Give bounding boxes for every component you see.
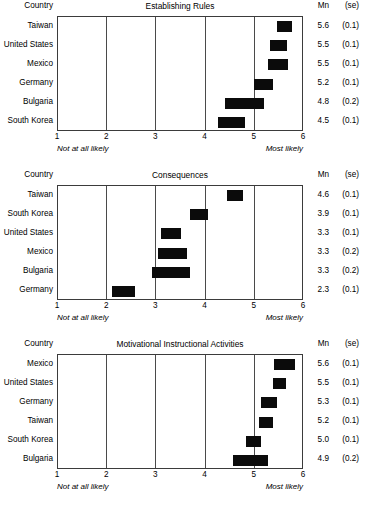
panel-title: Establishing Rules xyxy=(57,0,303,12)
plot-area xyxy=(57,185,303,300)
panel-header: CountryMotivational Instructional Activi… xyxy=(0,338,367,354)
row-value-se: (0.1) xyxy=(333,416,359,426)
row-label-country: Mexico xyxy=(0,59,53,69)
row-label-country: United States xyxy=(0,40,53,50)
x-axis-tick-label: 6 xyxy=(296,300,310,311)
gridline xyxy=(254,17,255,130)
column-header-mean: Mn xyxy=(305,338,329,350)
row-label-country: Mexico xyxy=(0,359,53,369)
row-label-country: Germany xyxy=(0,397,53,407)
gridline xyxy=(155,355,156,468)
confidence-interval-bar xyxy=(261,397,277,408)
row-value-se: (0.1) xyxy=(333,190,359,200)
panel-header: CountryEstablishing RulesMn(se) xyxy=(0,0,367,16)
x-axis-tick-label: 2 xyxy=(99,469,113,480)
gridline xyxy=(254,186,255,299)
confidence-interval-bar xyxy=(112,286,135,297)
row-label-country: United States xyxy=(0,228,53,238)
row-value-se: (0.1) xyxy=(333,116,359,126)
gridline xyxy=(106,186,107,299)
row-value-se: (0.1) xyxy=(333,78,359,88)
row-value-se: (0.1) xyxy=(333,285,359,295)
row-value-se: (0.2) xyxy=(333,97,359,107)
row-value-mean: 2.3 xyxy=(305,285,329,295)
column-header-country: Country xyxy=(0,0,53,12)
row-value-mean: 5.6 xyxy=(305,21,329,31)
axis-anchor-low: Not at all likely xyxy=(57,143,109,154)
confidence-interval-bar xyxy=(273,378,286,389)
panel-title: Motivational Instructional Activities xyxy=(57,338,303,350)
row-label-country: Germany xyxy=(0,78,53,88)
row-value-se: (0.1) xyxy=(333,59,359,69)
plot-area xyxy=(57,16,303,131)
confidence-interval-bar xyxy=(158,248,187,259)
gridline xyxy=(106,355,107,468)
panel-title: Consequences xyxy=(57,169,303,181)
row-label-country: Mexico xyxy=(0,247,53,257)
chart-sheet: CountryEstablishing RulesMn(se)Taiwan5.6… xyxy=(0,0,367,507)
row-label-country: Bulgaria xyxy=(0,266,53,276)
confidence-interval-bar xyxy=(225,98,263,109)
confidence-interval-bar xyxy=(227,190,243,201)
row-value-mean: 5.2 xyxy=(305,78,329,88)
chart-panel: CountryEstablishing RulesMn(se)Taiwan5.6… xyxy=(0,0,367,169)
row-value-mean: 5.3 xyxy=(305,397,329,407)
row-label-country: Taiwan xyxy=(0,21,53,31)
column-header-se: (se) xyxy=(333,169,359,181)
row-value-se: (0.2) xyxy=(333,454,359,464)
gridline xyxy=(205,17,206,130)
confidence-interval-bar xyxy=(254,79,274,90)
row-value-mean: 3.3 xyxy=(305,247,329,257)
row-label-country: United States xyxy=(0,378,53,388)
row-label-country: Germany xyxy=(0,285,53,295)
row-value-se: (0.1) xyxy=(333,435,359,445)
row-value-mean: 4.9 xyxy=(305,454,329,464)
column-header-mean: Mn xyxy=(305,169,329,181)
axis-anchor-high: Most likely xyxy=(180,312,303,323)
x-axis-tick-label: 4 xyxy=(198,300,212,311)
row-value-se: (0.1) xyxy=(333,21,359,31)
x-axis-tick-label: 5 xyxy=(247,469,261,480)
gridline xyxy=(254,355,255,468)
row-value-se: (0.1) xyxy=(333,228,359,238)
confidence-interval-bar xyxy=(233,455,267,466)
row-value-mean: 5.0 xyxy=(305,435,329,445)
x-axis-tick-label: 3 xyxy=(148,300,162,311)
x-axis-tick-label: 4 xyxy=(198,469,212,480)
gridline xyxy=(205,355,206,468)
axis-anchor-high: Most likely xyxy=(180,481,303,492)
row-label-country: South Korea xyxy=(0,209,53,219)
row-value-mean: 3.3 xyxy=(305,266,329,276)
row-value-se: (0.2) xyxy=(333,247,359,257)
confidence-interval-bar xyxy=(270,40,287,51)
x-axis-tick-label: 6 xyxy=(296,131,310,142)
column-header-se: (se) xyxy=(333,0,359,12)
chart-panel: CountryConsequencesMn(se)Taiwan4.6(0.1)S… xyxy=(0,169,367,338)
confidence-interval-bar xyxy=(274,359,295,370)
row-value-mean: 4.5 xyxy=(305,116,329,126)
column-header-se: (se) xyxy=(333,338,359,350)
row-value-mean: 4.6 xyxy=(305,190,329,200)
row-value-mean: 5.5 xyxy=(305,59,329,69)
confidence-interval-bar xyxy=(246,436,261,447)
confidence-interval-bar xyxy=(268,59,289,70)
row-value-mean: 5.5 xyxy=(305,40,329,50)
axis-anchor-high: Most likely xyxy=(180,143,303,154)
x-axis-tick-label: 1 xyxy=(50,469,64,480)
chart-panel: CountryMotivational Instructional Activi… xyxy=(0,338,367,507)
row-value-se: (0.1) xyxy=(333,397,359,407)
x-axis-tick-label: 5 xyxy=(247,300,261,311)
x-axis-tick-label: 2 xyxy=(99,131,113,142)
row-label-country: South Korea xyxy=(0,435,53,445)
column-header-country: Country xyxy=(0,169,53,181)
row-value-se: (0.1) xyxy=(333,40,359,50)
row-value-se: (0.2) xyxy=(333,266,359,276)
x-axis-tick-label: 3 xyxy=(148,131,162,142)
gridline xyxy=(106,17,107,130)
confidence-interval-bar xyxy=(190,209,208,220)
confidence-interval-bar xyxy=(161,228,181,239)
plot-area xyxy=(57,354,303,469)
panel-header: CountryConsequencesMn(se) xyxy=(0,169,367,185)
axis-anchor-low: Not at all likely xyxy=(57,481,109,492)
row-value-mean: 3.9 xyxy=(305,209,329,219)
